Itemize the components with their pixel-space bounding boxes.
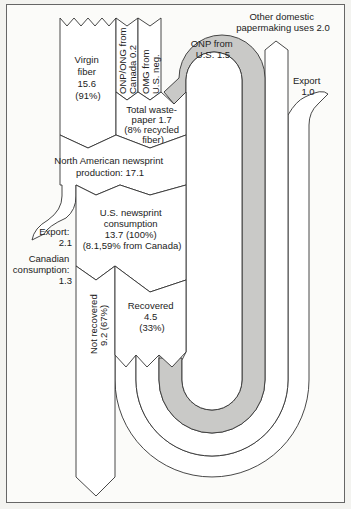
label-export-left: Export: 2.1 bbox=[39, 226, 72, 248]
onp-us-core bbox=[182, 52, 242, 410]
label-other-domestic: Other domestic papermaking uses 2.0 bbox=[236, 11, 329, 33]
label-onp-us: ONP from U.S. 1.5 bbox=[191, 38, 236, 60]
label-canadian-consumption: Canadian consumption: 1.3 bbox=[13, 253, 72, 286]
newsprint-flow-diagram: Virgin fiber 15.6 (91%) ONP/ONG from Can… bbox=[0, 0, 351, 509]
label-virgin-fiber: Virgin fiber 15.6 (91%) bbox=[75, 54, 102, 101]
